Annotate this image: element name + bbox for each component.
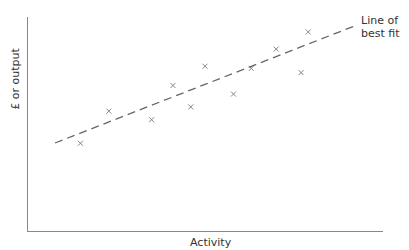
x-marker-icon (106, 109, 111, 114)
x-marker-icon (274, 47, 279, 52)
x-marker-icon (299, 70, 304, 75)
best-fit-annotation: Line of best fit (361, 14, 400, 40)
x-marker-icon (306, 29, 311, 34)
y-axis-label: £ or output (9, 39, 23, 119)
scatter-chart (0, 0, 409, 250)
line-of-best-fit (55, 25, 357, 143)
x-marker-icon (78, 141, 83, 146)
annotation-line-2: best fit (361, 27, 400, 40)
x-marker-icon (170, 83, 175, 88)
annotation-line-1: Line of (361, 14, 400, 27)
data-points (78, 29, 311, 145)
x-marker-icon (203, 64, 208, 69)
x-marker-icon (149, 117, 154, 122)
x-marker-icon (188, 104, 193, 109)
x-marker-icon (231, 92, 236, 97)
x-axis-label: Activity (190, 236, 231, 249)
